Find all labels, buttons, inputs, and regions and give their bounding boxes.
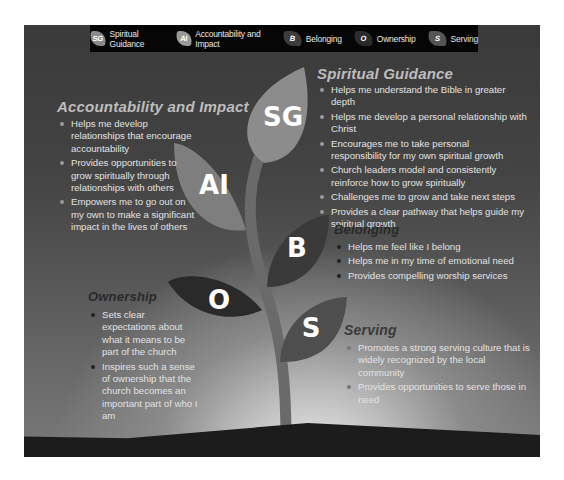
ownership-title: Ownership: [88, 289, 157, 304]
list-item: Helps me understand the Bible in greater…: [317, 84, 527, 109]
spiritual-guidance-title: Spiritual Guidance: [317, 65, 453, 82]
serving-title: Serving: [344, 322, 397, 338]
o-leaf-label: O: [204, 282, 234, 318]
infographic-panel: SG Spiritual Guidance AI Accountability …: [24, 25, 540, 457]
belonging-list: Helps me feel like I belong Helps me in …: [334, 241, 534, 284]
list-item: Church leaders model and consistently re…: [317, 164, 527, 189]
list-item: Helps me in my time of emotional need: [334, 255, 534, 267]
ai-leaf-label: AI: [192, 165, 236, 205]
list-item: Promotes a strong serving culture that i…: [344, 342, 534, 379]
accountability-list: Helps me develop relationships that enco…: [57, 118, 197, 236]
list-item: Empowers me to go out on my own to make …: [57, 196, 197, 233]
serving-list: Promotes a strong serving culture that i…: [344, 342, 534, 408]
b-leaf-label: B: [282, 230, 312, 266]
spiritual-guidance-list: Helps me understand the Bible in greater…: [317, 84, 527, 232]
list-item: Inspires such a sense of ownership that …: [88, 361, 200, 423]
belonging-title: Belonging: [334, 222, 399, 237]
list-item: Encourages me to take personal responsib…: [317, 138, 527, 163]
sg-leaf-label: SG: [258, 97, 308, 137]
ownership-list: Sets clear expectations about what it me…: [88, 309, 200, 425]
list-item: Helps me develop a personal relationship…: [317, 111, 527, 136]
list-item: Helps me develop relationships that enco…: [57, 118, 197, 155]
list-item: Provides compelling worship services: [334, 270, 534, 282]
accountability-title: Accountability and Impact: [57, 98, 249, 115]
list-item: Challenges me to grow and take next step…: [317, 191, 527, 203]
list-item: Helps me feel like I belong: [334, 241, 534, 253]
list-item: Sets clear expectations about what it me…: [88, 309, 200, 359]
s-leaf-label: S: [296, 310, 326, 346]
list-item: Provides opportunities to grow spiritual…: [57, 157, 197, 194]
list-item: Provides opportunities to serve those in…: [344, 381, 534, 406]
